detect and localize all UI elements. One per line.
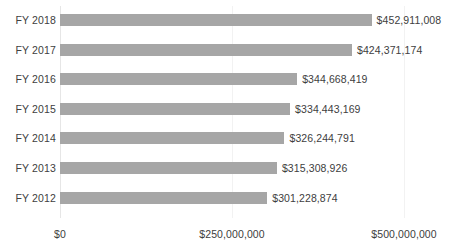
category-label: FY 2015 bbox=[15, 103, 56, 115]
bar-row: FY 2013$315,308,926 bbox=[0, 153, 454, 183]
bar-value-label: $452,911,008 bbox=[377, 14, 442, 26]
category-label: FY 2017 bbox=[15, 44, 56, 56]
bar-chart: FY 2018$452,911,008FY 2017$424,371,174FY… bbox=[0, 0, 454, 252]
bar[interactable] bbox=[60, 73, 297, 85]
bar-value-label: $344,668,419 bbox=[302, 73, 367, 85]
bar[interactable] bbox=[60, 162, 277, 174]
bar-value-label: $315,308,926 bbox=[282, 162, 347, 174]
category-label: FY 2016 bbox=[15, 73, 56, 85]
category-label: FY 2014 bbox=[15, 132, 56, 144]
bar-value-label: $301,228,874 bbox=[272, 192, 337, 204]
x-axis-tick-label: $500,000,000 bbox=[371, 228, 436, 240]
bar-row: FY 2012$301,228,874 bbox=[0, 183, 454, 213]
bar-row: FY 2018$452,911,008 bbox=[0, 5, 454, 35]
bar-value-label: $334,443,169 bbox=[295, 103, 360, 115]
bar-row: FY 2015$334,443,169 bbox=[0, 94, 454, 124]
category-label: FY 2013 bbox=[15, 162, 56, 174]
x-axis-tick-label: $250,000,000 bbox=[199, 228, 264, 240]
bar[interactable] bbox=[60, 192, 267, 204]
bar-row: FY 2014$326,244,791 bbox=[0, 123, 454, 153]
bar-value-label: $326,244,791 bbox=[289, 132, 354, 144]
bar-value-label: $424,371,174 bbox=[357, 44, 422, 56]
bar[interactable] bbox=[60, 103, 290, 115]
bar-row: FY 2017$424,371,174 bbox=[0, 35, 454, 65]
bar[interactable] bbox=[60, 44, 352, 56]
bar[interactable] bbox=[60, 14, 372, 26]
category-label: FY 2012 bbox=[15, 192, 56, 204]
category-label: FY 2018 bbox=[15, 14, 56, 26]
bar[interactable] bbox=[60, 132, 284, 144]
plot-area: FY 2018$452,911,008FY 2017$424,371,174FY… bbox=[0, 0, 454, 252]
bar-row: FY 2016$344,668,419 bbox=[0, 64, 454, 94]
x-axis-tick-label: $0 bbox=[54, 228, 66, 240]
